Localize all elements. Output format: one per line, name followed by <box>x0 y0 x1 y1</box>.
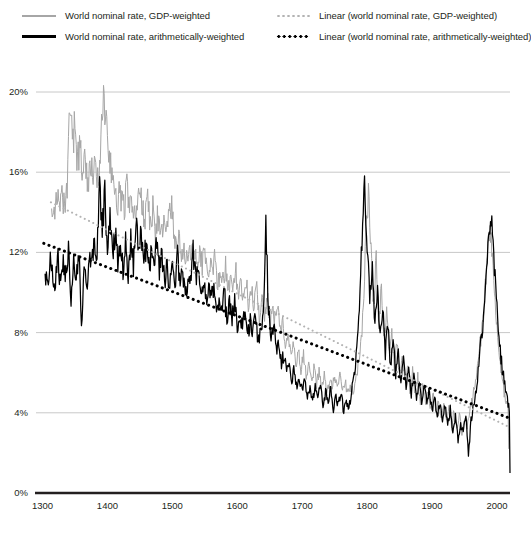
legend-label-2: Linear (world nominal rate, GDP-weighted… <box>319 10 497 21</box>
legend-swatch-solid-black-icon <box>22 32 56 42</box>
legend-item-world-nominal-gdp-weighted: World nominal rate, GDP-weighted <box>22 10 210 21</box>
y-tick-label-16pct: 16% <box>0 166 28 177</box>
x-tick-label-1500: 1500 <box>152 500 192 511</box>
series-line-1 <box>45 176 510 473</box>
legend-item-linear-arithmetically-weighted: Linear (world nominal rate, arithmetical… <box>276 31 531 42</box>
legend-label-1: World nominal rate, arithmetically-weigh… <box>65 31 244 42</box>
y-tick-label-20pct: 20% <box>0 86 28 97</box>
x-tick-label-2000: 2000 <box>477 500 517 511</box>
legend-item-world-nominal-arithmetically-weighted: World nominal rate, arithmetically-weigh… <box>22 31 244 42</box>
x-tick-label-1700: 1700 <box>282 500 322 511</box>
series-line-0 <box>52 85 509 449</box>
y-tick-label-12pct: 12% <box>0 246 28 257</box>
chart-legend: World nominal rate, GDP-weighted World n… <box>0 0 523 56</box>
x-tick-label-1800: 1800 <box>347 500 387 511</box>
trendline-1 <box>44 243 509 417</box>
x-tick-label-1300: 1300 <box>22 500 62 511</box>
chart-plot-area: 0%4%8%12%16%20% 130014001500160017001800… <box>0 56 523 541</box>
x-tick-label-1900: 1900 <box>412 500 452 511</box>
legend-swatch-dotted-black-icon <box>276 32 310 42</box>
chart-canvas <box>0 56 523 541</box>
x-tick-label-1600: 1600 <box>217 500 257 511</box>
chart-series-layer <box>45 85 510 473</box>
legend-label-3: Linear (world nominal rate, arithmetical… <box>319 31 531 42</box>
y-tick-label-8pct: 8% <box>0 327 28 338</box>
legend-swatch-solid-gray-icon <box>22 11 56 21</box>
y-tick-label-4pct: 4% <box>0 407 28 418</box>
legend-item-linear-gdp-weighted: Linear (world nominal rate, GDP-weighted… <box>276 10 497 21</box>
legend-swatch-dotted-gray-icon <box>276 11 310 21</box>
legend-label-0: World nominal rate, GDP-weighted <box>65 10 210 21</box>
x-tick-label-1400: 1400 <box>87 500 127 511</box>
y-tick-label-0pct: 0% <box>0 487 28 498</box>
